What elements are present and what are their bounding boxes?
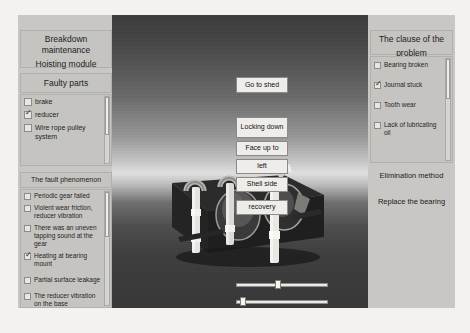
faulty-parts-title-panel: Faulty parts — [20, 73, 112, 93]
checkbox-periodic-gear-failed[interactable] — [24, 193, 31, 200]
zoom-slider-thumb[interactable] — [275, 280, 281, 289]
module-header-line1: Breakdown maintenance — [21, 31, 111, 59]
checkbox-reducer[interactable] — [24, 111, 32, 119]
elimination-method-body-wrap: Replace the bearing — [370, 197, 453, 217]
checkbox-journal-stuck[interactable] — [374, 82, 381, 89]
checkbox-tooth-wear[interactable] — [374, 102, 381, 109]
fault-phenomenon-title: The fault phenomenon — [21, 173, 111, 187]
faulty-parts-list: brake reducer Wire rope pulley system — [21, 95, 111, 165]
cause-list-scrollbar-thumb[interactable] — [446, 59, 450, 99]
left-button[interactable]: left — [236, 159, 288, 174]
cause-title-line1: The clause of the — [371, 31, 452, 48]
cause-list-panel: Bearing broken Journal stuck Tooth wear … — [370, 56, 453, 163]
zoom-slider[interactable] — [236, 280, 328, 289]
rotation-slider-track[interactable] — [236, 300, 328, 304]
checkbox-partial-surface-leakage[interactable] — [24, 277, 31, 284]
fault-phenomenon-list: Periodic gear failed Violent wear fricti… — [21, 190, 111, 307]
elimination-method-title-wrap: Elimination method — [370, 171, 453, 189]
checkbox-row-brake[interactable]: brake — [21, 95, 111, 108]
faulty-parts-scrollbar-thumb[interactable] — [105, 97, 109, 135]
cause-title-panel: The clause of the problem — [370, 30, 453, 55]
checkbox-row-periodic-gear-failed[interactable]: Periodic gear failed — [21, 190, 111, 202]
checkbox-row-lack-of-lubricating-oil[interactable]: Lack of lubricating oil — [371, 119, 452, 139]
checkbox-lack-of-lubricating-oil[interactable] — [374, 122, 381, 129]
faulty-parts-title: Faulty parts — [21, 74, 111, 92]
checkbox-row-bearing-broken[interactable]: Bearing broken — [371, 59, 452, 71]
application-window: Go to shed Locking down Face up to left … — [18, 15, 455, 308]
checkbox-label-reducer: reducer — [35, 110, 59, 119]
elimination-method-body: Replace the bearing — [370, 197, 453, 207]
checkbox-row-reducer[interactable]: reducer — [21, 108, 111, 121]
module-header-panel: Breakdown maintenance Hoisting module — [20, 30, 112, 68]
checkbox-wire-rope-pulley-system[interactable] — [24, 124, 32, 132]
locking-down-button[interactable]: Locking down — [236, 117, 288, 138]
checkbox-reducer-vibration-on-base[interactable] — [24, 293, 31, 300]
checkbox-brake[interactable] — [24, 98, 32, 106]
checkbox-heating-at-bearing-mount[interactable] — [24, 253, 31, 260]
go-to-shed-button[interactable]: Go to shed — [236, 77, 288, 93]
fault-phenomenon-scrollbar-thumb[interactable] — [105, 192, 109, 237]
checkbox-row-violent-wear-friction[interactable]: Violent wear friction, reducer vibration — [21, 202, 111, 222]
module-header-line2: Hoisting module — [21, 59, 111, 73]
checkbox-label-violent-wear-friction: Violent wear friction, reducer vibration — [34, 204, 103, 220]
checkbox-label-bearing-broken: Bearing broken — [384, 61, 428, 69]
checkbox-row-tooth-wear[interactable]: Tooth wear — [371, 99, 452, 111]
checkbox-label-journal-stuck: Journal stuck — [384, 81, 422, 89]
checkbox-label-brake: brake — [35, 97, 53, 106]
checkbox-label-heating-at-bearing-mount: Heating at bearing mount — [34, 252, 103, 268]
checkbox-label-lack-of-lubricating-oil: Lack of lubricating oil — [384, 121, 444, 137]
checkbox-label-periodic-gear-failed: Periodic gear failed — [34, 192, 90, 200]
checkbox-row-uneven-tapping-sound[interactable]: There was an uneven tapping sound at the… — [21, 222, 111, 250]
checkbox-label-reducer-vibration-on-base: The reducer vibration on the base — [34, 292, 103, 307]
cause-list-scrollbar[interactable] — [445, 58, 451, 161]
checkbox-label-wire-rope-pulley-system: Wire rope pulley system — [35, 123, 103, 141]
checkbox-label-uneven-tapping-sound: There was an uneven tapping sound at the… — [34, 224, 103, 248]
checkbox-bearing-broken[interactable] — [374, 62, 381, 69]
checkbox-violent-wear-friction[interactable] — [24, 205, 31, 212]
checkbox-label-tooth-wear: Tooth wear — [384, 101, 416, 109]
elimination-method-title: Elimination method — [370, 171, 453, 181]
faulty-parts-list-panel: brake reducer Wire rope pulley system — [20, 94, 112, 166]
rotation-slider[interactable] — [236, 297, 328, 306]
checkbox-row-partial-surface-leakage[interactable]: Partial surface leakage — [21, 274, 111, 286]
checkbox-row-heating-at-bearing-mount[interactable]: Heating at bearing mount — [21, 250, 111, 270]
cause-list: Bearing broken Journal stuck Tooth wear … — [371, 57, 452, 162]
page-root: Go to shed Locking down Face up to left … — [0, 0, 470, 333]
faulty-parts-scrollbar[interactable] — [104, 96, 110, 164]
face-up-to-button[interactable]: Face up to — [236, 141, 288, 156]
recovery-button[interactable]: recovery — [236, 200, 288, 215]
checkbox-uneven-tapping-sound[interactable] — [24, 225, 31, 232]
checkbox-row-journal-stuck[interactable]: Journal stuck — [371, 79, 452, 91]
checkbox-label-partial-surface-leakage: Partial surface leakage — [34, 276, 100, 284]
fault-phenomenon-scrollbar[interactable] — [104, 191, 110, 306]
zoom-slider-track[interactable] — [236, 283, 328, 287]
3d-viewport[interactable]: Go to shed Locking down Face up to left … — [112, 15, 368, 308]
fault-phenomenon-list-panel: Periodic gear failed Violent wear fricti… — [20, 189, 112, 308]
checkbox-row-wire-rope-pulley-system[interactable]: Wire rope pulley system — [21, 121, 111, 143]
fault-phenomenon-title-panel: The fault phenomenon — [20, 172, 112, 188]
shell-side-button[interactable]: Shell side — [236, 177, 288, 192]
checkbox-row-reducer-vibration-on-base[interactable]: The reducer vibration on the base — [21, 290, 111, 307]
rotation-slider-thumb[interactable] — [240, 297, 246, 306]
